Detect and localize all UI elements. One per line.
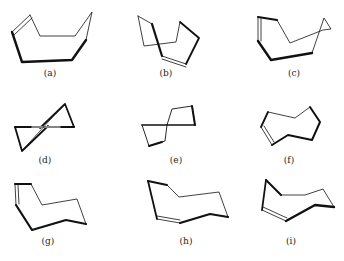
- conformation-b: [138, 16, 199, 67]
- conformation-c: [258, 17, 331, 60]
- conformation-a: [12, 12, 92, 62]
- label-g: (g): [42, 236, 55, 246]
- label-h: (h): [180, 236, 193, 246]
- label-c: (c): [288, 68, 300, 78]
- label-d: (d): [39, 155, 52, 165]
- conformation-h: [148, 181, 228, 223]
- label-e: (e): [170, 155, 182, 165]
- conformation-e: [142, 106, 195, 146]
- conformation-g: [15, 184, 86, 230]
- conformation-i: [262, 180, 334, 221]
- conformation-d: [15, 104, 74, 151]
- conformation-f: [261, 107, 320, 145]
- label-a: (a): [44, 68, 56, 78]
- label-f: (f): [284, 155, 294, 165]
- ring-conformations-figure: [0, 0, 344, 261]
- label-b: (b): [160, 68, 173, 78]
- label-i: (i): [286, 236, 296, 246]
